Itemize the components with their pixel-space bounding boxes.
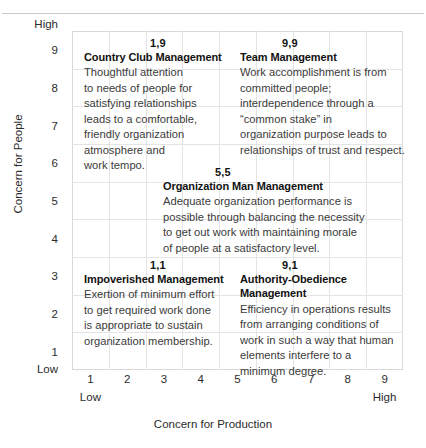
quadrant-country-club: 1,9 Country Club Management Thoughtful a… [84, 37, 232, 174]
y-axis-title: Concern for People [12, 104, 24, 224]
x-axis-title: Concern for Production [0, 418, 426, 430]
x-axis-low-label: Low [72, 392, 109, 404]
y-tick-5: 5 [52, 196, 58, 208]
quadrant-heading-authority-obedience-line2: Management [240, 287, 410, 300]
y-tick-1: 1 [52, 347, 58, 359]
x-axis-high-label: High [366, 392, 403, 404]
grid-line-horizontal [72, 257, 403, 258]
quadrant-body-authority-obedience: Efficiency in operations resultsfrom arr… [240, 302, 410, 379]
y-axis-low-label: Low [37, 364, 58, 376]
x-tick-1: 1 [72, 374, 109, 386]
quadrant-team: 9,9 Team Management Work accomplishment … [240, 37, 410, 158]
y-axis-high-label: High [34, 19, 58, 31]
quadrant-heading-authority-obedience-line1: Authority-Obedience [240, 273, 410, 286]
body-line-0: Thoughtful attention [84, 65, 232, 80]
body-line-2: to get out work with maintaining morale [163, 225, 363, 240]
quadrant-body-team: Work accomplishment is fromcommitted peo… [240, 65, 410, 158]
x-tick-3: 3 [146, 374, 183, 386]
y-axis: High 9 8 7 6 5 4 3 2 1 Low [0, 31, 66, 370]
body-line-3: organization membership. [84, 334, 232, 349]
body-line-4: organization purpose leads to [240, 127, 410, 142]
y-tick-7: 7 [52, 121, 58, 133]
body-line-5: atmosphere and [84, 143, 232, 158]
body-line-1: from arranging conditions of [240, 317, 410, 332]
quadrant-heading-team: Team Management [240, 51, 410, 64]
body-line-3: “common stake” in [240, 112, 410, 127]
x-tick-4: 4 [182, 374, 219, 386]
y-tick-6: 6 [52, 158, 58, 170]
quadrant-body-country-club: Thoughtful attentionto needs of people f… [84, 65, 232, 173]
body-line-2: satisfying relationships [84, 96, 232, 111]
body-line-0: Work accomplishment is from [240, 65, 410, 80]
body-line-0: Adequate organization performance is [163, 194, 363, 209]
body-line-1: to needs of people for [84, 81, 232, 96]
body-line-4: friendly organization [84, 127, 232, 142]
body-line-2: is appropriate to sustain [84, 318, 232, 333]
y-tick-2: 2 [52, 309, 58, 321]
body-line-1: possible through balancing the necessity [163, 210, 363, 225]
y-tick-9: 9 [52, 45, 58, 57]
quadrant-heading-organization-man: Organization Man Management [163, 180, 363, 193]
top-divider [2, 13, 424, 14]
body-line-1: committed people; [240, 81, 410, 96]
quadrant-body-organization-man: Adequate organization performance isposs… [163, 194, 363, 256]
quadrant-heading-impoverished: Impoverished Management [84, 273, 232, 286]
body-line-3: leads to a comfortable, [84, 112, 232, 127]
quadrant-heading-country-club: Country Club Management [84, 51, 232, 64]
body-line-0: Efficiency in operations results [240, 302, 410, 317]
body-line-4: minimum degree. [240, 364, 410, 379]
quadrant-code-9-9: 9,9 [240, 37, 340, 50]
quadrant-authority-obedience: 9,1 Authority-Obedience Management Effic… [240, 259, 410, 379]
quadrant-code-1-1: 1,1 [84, 259, 232, 272]
y-tick-3: 3 [52, 271, 58, 283]
y-tick-8: 8 [52, 83, 58, 95]
x-tick-2: 2 [109, 374, 146, 386]
body-line-3: elements interfere to a [240, 348, 410, 363]
quadrant-code-1-9: 1,9 [84, 37, 232, 50]
quadrant-impoverished: 1,1 Impoverished Management Exertion of … [84, 259, 232, 349]
body-line-2: interdependence through a [240, 96, 410, 111]
quadrant-code-5-5: 5,5 [163, 166, 283, 179]
body-line-3: of people at a satisfactory level. [163, 241, 363, 256]
y-tick-4: 4 [52, 234, 58, 246]
quadrant-organization-man: 5,5 Organization Man Management Adequate… [163, 166, 363, 256]
quadrant-code-9-1: 9,1 [240, 259, 340, 272]
quadrant-body-impoverished: Exertion of minimum effortto get require… [84, 287, 232, 349]
body-line-0: Exertion of minimum effort [84, 287, 232, 302]
body-line-1: to get required work done [84, 303, 232, 318]
body-line-2: work in such a way that human [240, 333, 410, 348]
body-line-5: relationships of trust and respect. [240, 143, 410, 158]
